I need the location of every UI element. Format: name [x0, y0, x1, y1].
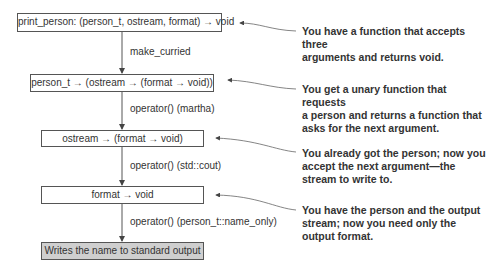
annotation-2: You get a unary function that requests a…	[302, 83, 489, 135]
box-format-fn: format → void	[41, 186, 204, 204]
box-result: Writes the name to standard output	[41, 242, 204, 260]
box-ostream-fn: ostream → (format → void)	[41, 130, 204, 147]
annotation-pointer-4	[216, 195, 296, 210]
box-curried-person: person_t → (ostream → (format → void))	[30, 74, 214, 92]
annotation-4: You have the person and the output strea…	[302, 204, 480, 243]
annotation-3-line-2: accept the next argument—the	[302, 160, 486, 173]
annotation-2-line-1: You get a unary function that requests	[302, 83, 489, 109]
edge-label-cout: operator() (std::cout)	[130, 160, 221, 171]
edge-label-make-curried: make_curried	[130, 46, 191, 57]
annotation-1-line-2: arguments and returns void.	[302, 51, 489, 64]
edge-label-name-only: operator() (person_t::name_only)	[130, 216, 277, 227]
annotation-2-line-2: a person and returns a function that	[302, 109, 489, 122]
annotation-3-line-3: stream to write to.	[302, 173, 486, 186]
annotation-2-line-3: asks for the next argument.	[302, 122, 489, 135]
annotation-pointer-3	[216, 138, 296, 152]
annotation-3: You already got the person; now you acce…	[302, 147, 486, 186]
annotation-pointer-2	[228, 80, 296, 89]
annotation-4-line-1: You have the person and the output	[302, 204, 480, 217]
edge-label-martha: operator() (martha)	[130, 103, 214, 114]
annotation-3-line-1: You already got the person; now you	[302, 147, 486, 160]
annotation-1-line-1: You have a function that accepts three	[302, 25, 489, 51]
annotation-pointer-1	[240, 23, 296, 31]
box-print-person: print_person: (person_t, ostream, format…	[17, 13, 222, 32]
annotation-4-line-2: stream; now you need only the	[302, 217, 480, 230]
annotation-4-line-3: output format.	[302, 230, 480, 243]
annotation-1: You have a function that accepts three a…	[302, 25, 489, 64]
